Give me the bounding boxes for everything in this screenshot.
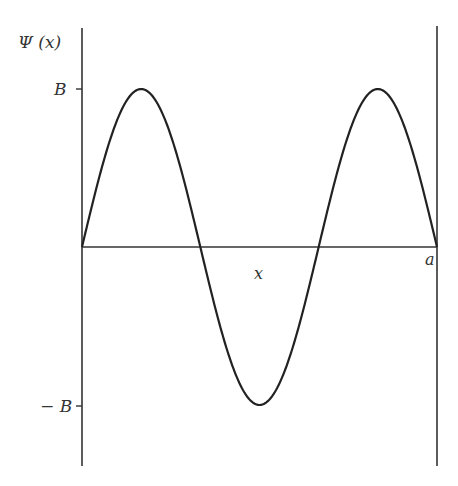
wavefunction-diagram: Ψ (x) B − B x a [0,0,458,486]
boundary-label-a: a [425,250,435,269]
tick-label-b: B [53,79,67,99]
x-axis-label: x [254,264,263,283]
tick-label-neg-b: − B [40,396,72,416]
y-axis-label: Ψ (x) [18,32,61,52]
